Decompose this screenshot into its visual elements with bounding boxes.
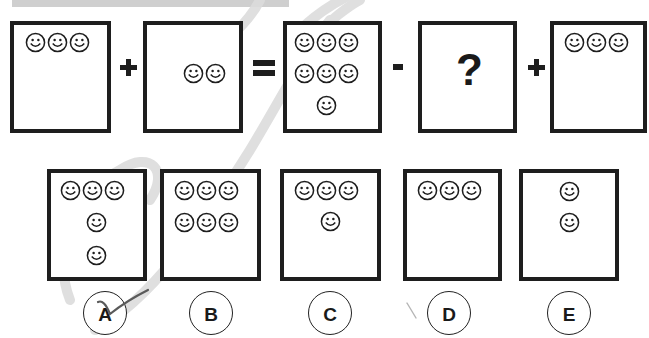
smiley-icon [316, 180, 337, 201]
smiley-icon [439, 180, 460, 201]
option-c-button[interactable]: C [308, 291, 352, 335]
smiley-icon [47, 32, 68, 53]
smiley-icon [196, 212, 217, 233]
equation-box-3 [283, 21, 382, 133]
option-a-button[interactable]: A [83, 291, 127, 335]
smiley-icon [320, 211, 341, 232]
smiley-icon [174, 212, 195, 233]
option-e-button[interactable]: E [547, 291, 591, 335]
option-c-label: C [323, 304, 337, 326]
smiley-icon [218, 180, 239, 201]
option-box-c[interactable] [280, 169, 381, 281]
smiley-icon [69, 32, 90, 53]
header-banner [12, 0, 289, 7]
equation-box-2 [143, 21, 243, 133]
option-b-button[interactable]: B [189, 291, 233, 335]
option-box-d[interactable] [403, 169, 502, 281]
smiley-icon [218, 212, 239, 233]
smiley-icon [104, 180, 125, 201]
pen-mark [406, 302, 418, 320]
minus-operator [393, 64, 403, 70]
smiley-icon [608, 32, 629, 53]
smiley-icon [82, 180, 103, 201]
equation-box-unknown: ? [418, 21, 517, 133]
smiley-icon [559, 181, 580, 202]
smiley-icon [174, 180, 195, 201]
smiley-icon [316, 32, 337, 53]
smiley-icon [86, 245, 107, 266]
smiley-icon [196, 180, 217, 201]
smiley-icon [183, 63, 204, 84]
smiley-icon [294, 32, 315, 53]
option-b-label: B [204, 304, 218, 326]
smiley-icon [316, 63, 337, 84]
equation-box-1 [10, 21, 111, 133]
equals-operator [253, 60, 275, 76]
smiley-icon [338, 180, 359, 201]
smiley-icon [60, 180, 81, 201]
option-box-e[interactable] [519, 169, 619, 281]
smiley-icon [586, 32, 607, 53]
smiley-icon [294, 180, 315, 201]
option-d-label: D [442, 304, 456, 326]
smiley-icon [86, 212, 107, 233]
smiley-icon [316, 95, 337, 116]
smiley-icon [25, 32, 46, 53]
equation-box-5 [550, 21, 647, 133]
smiley-icon [338, 32, 359, 53]
option-a-label: A [98, 304, 112, 326]
question-mark: ? [456, 48, 483, 92]
option-box-b[interactable] [160, 169, 261, 281]
smiley-icon [417, 180, 438, 201]
smiley-icon [461, 180, 482, 201]
smiley-icon [338, 63, 359, 84]
smiley-icon [564, 32, 585, 53]
plus-operator [120, 59, 137, 76]
smiley-icon [294, 63, 315, 84]
smiley-icon [559, 212, 580, 233]
smiley-icon [205, 63, 226, 84]
plus-operator [528, 59, 545, 76]
option-box-a[interactable] [47, 169, 147, 281]
option-d-button[interactable]: D [427, 291, 471, 335]
option-e-label: E [563, 304, 576, 326]
